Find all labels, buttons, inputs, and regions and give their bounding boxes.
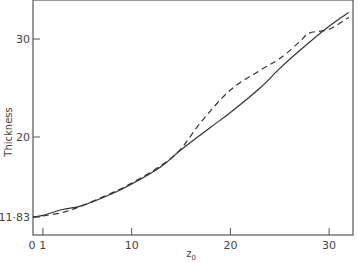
x-tick-label: 20 <box>223 239 237 252</box>
y-tick-label: 11·83 <box>0 211 30 224</box>
series-dashed-line <box>33 17 349 217</box>
series-lines <box>33 13 349 218</box>
series-solid-line <box>33 13 349 218</box>
line-chart: 01102030 11·832030 Thickness z0 <box>0 0 358 263</box>
y-axis-title: Thickness <box>3 107 14 157</box>
y-tick-label: 30 <box>16 33 30 46</box>
x-axis: 01102030 <box>29 228 337 252</box>
x-tick-label: 30 <box>322 239 336 252</box>
x-tick-label: 1 <box>39 239 46 252</box>
x-tick-label: 0 <box>29 239 36 252</box>
x-axis-title: z0 <box>186 248 196 262</box>
y-tick-label: 20 <box>16 131 30 144</box>
x-tick-label: 10 <box>125 239 139 252</box>
